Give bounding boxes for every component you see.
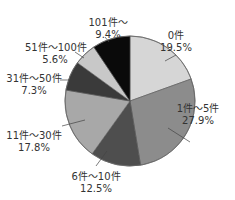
label-11-30: 11件〜30件17.8% [4, 130, 64, 154]
label-1-5: 1件〜5件27.9% [168, 103, 228, 127]
slice-percentage: 9.4% [78, 29, 138, 41]
slice-category: 101件〜 [78, 17, 138, 29]
label-101-plus: 101件〜9.4% [78, 17, 138, 41]
slice-category: 51件〜100件 [25, 42, 85, 54]
label-0: 0件19.5% [146, 30, 206, 54]
slice-category: 0件 [146, 30, 206, 42]
label-51-100: 51件〜100件5.6% [25, 42, 85, 66]
slice-category: 11件〜30件 [4, 130, 64, 142]
slice-category: 6件〜10件 [66, 171, 126, 183]
slice-percentage: 17.8% [4, 142, 64, 154]
slice-percentage: 12.5% [66, 183, 126, 195]
slice-category: 1件〜5件 [168, 103, 228, 115]
slice-percentage: 19.5% [146, 42, 206, 54]
label-31-50: 31件〜50件7.3% [4, 73, 64, 97]
slice-percentage: 27.9% [168, 115, 228, 127]
slice-percentage: 7.3% [4, 85, 64, 97]
slice-percentage: 5.6% [25, 54, 85, 66]
label-6-10: 6件〜10件12.5% [66, 171, 126, 195]
slice-category: 31件〜50件 [4, 73, 64, 85]
